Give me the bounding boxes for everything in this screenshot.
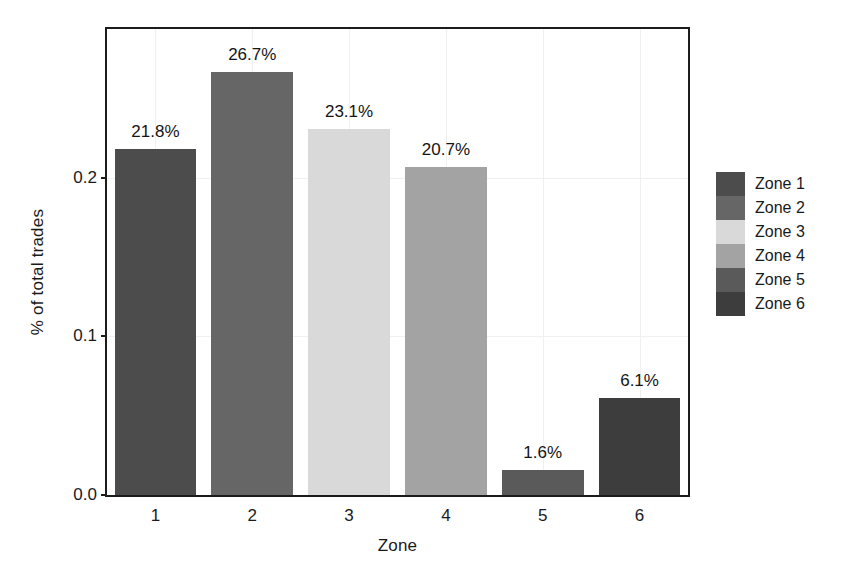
plot-area: 0.00.10.221.8%126.7%223.1%320.7%41.6%56.… xyxy=(105,27,690,497)
legend-swatch xyxy=(716,292,745,316)
legend: Zone 1Zone 2Zone 3Zone 4Zone 5Zone 6 xyxy=(716,172,840,316)
x-axis-title: Zone xyxy=(105,536,690,556)
bar-value-label: 21.8% xyxy=(131,122,179,142)
y-axis-tick xyxy=(101,335,107,337)
legend-label: Zone 1 xyxy=(755,175,805,193)
bar-chart-figure: % of total trades 0.00.10.221.8%126.7%22… xyxy=(0,0,845,574)
y-axis-tick xyxy=(101,177,107,179)
bar-value-label: 23.1% xyxy=(325,102,373,122)
bar-value-label: 26.7% xyxy=(228,45,276,65)
bar[interactable]: 6.1% xyxy=(599,398,681,495)
bar-value-label: 6.1% xyxy=(620,371,659,391)
x-axis-tick-label: 1 xyxy=(151,506,160,526)
y-axis-tick-label: 0.2 xyxy=(73,168,97,188)
bar[interactable]: 21.8% xyxy=(115,149,197,495)
legend-label: Zone 4 xyxy=(755,247,805,265)
bar[interactable]: 1.6% xyxy=(502,470,584,495)
legend-swatch xyxy=(716,268,745,292)
legend-item[interactable]: Zone 6 xyxy=(716,292,840,316)
gridline-vertical xyxy=(543,29,544,495)
bar-value-label: 1.6% xyxy=(523,443,562,463)
bar[interactable]: 26.7% xyxy=(211,72,293,495)
legend-label: Zone 5 xyxy=(755,271,805,289)
bar[interactable]: 23.1% xyxy=(308,129,390,495)
bar[interactable]: 20.7% xyxy=(405,167,487,495)
x-axis-tick-label: 3 xyxy=(344,506,353,526)
y-axis-tick-label: 0.0 xyxy=(73,485,97,505)
legend-item[interactable]: Zone 4 xyxy=(716,244,840,268)
legend-label: Zone 2 xyxy=(755,199,805,217)
x-axis-tick-label: 5 xyxy=(538,506,547,526)
bar-value-label: 20.7% xyxy=(422,140,470,160)
x-axis-tick-label: 4 xyxy=(441,506,450,526)
legend-item[interactable]: Zone 1 xyxy=(716,172,840,196)
legend-item[interactable]: Zone 2 xyxy=(716,196,840,220)
legend-swatch xyxy=(716,244,745,268)
legend-item[interactable]: Zone 5 xyxy=(716,268,840,292)
legend-label: Zone 3 xyxy=(755,223,805,241)
x-axis-tick-label: 2 xyxy=(248,506,257,526)
x-axis-tick-label: 6 xyxy=(635,506,644,526)
y-axis-title: % of total trades xyxy=(28,162,48,382)
legend-swatch xyxy=(716,196,745,220)
legend-swatch xyxy=(716,172,745,196)
legend-swatch xyxy=(716,220,745,244)
plot-inner: 0.00.10.221.8%126.7%223.1%320.7%41.6%56.… xyxy=(107,29,688,495)
y-axis-tick-label: 0.1 xyxy=(73,326,97,346)
legend-item[interactable]: Zone 3 xyxy=(716,220,840,244)
y-axis-tick xyxy=(101,494,107,496)
legend-label: Zone 6 xyxy=(755,295,805,313)
